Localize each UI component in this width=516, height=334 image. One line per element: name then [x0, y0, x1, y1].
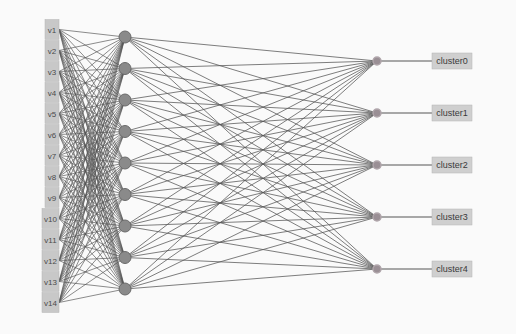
edge-v13-h9 [59, 282, 125, 290]
input-label: v8 [48, 173, 57, 182]
edge-h9-cluster0 [125, 61, 377, 289]
edge-h4-cluster2 [125, 132, 377, 166]
input-node-v10: v10 [42, 209, 59, 229]
input-node-v1: v1 [45, 20, 59, 40]
input-node-v5: v5 [45, 104, 59, 124]
input-node-v9: v9 [45, 188, 59, 208]
output-label: cluster3 [436, 212, 468, 222]
input-node-v11: v11 [42, 230, 59, 250]
hidden-layer [119, 31, 131, 295]
hidden-node-2 [119, 63, 131, 75]
input-label: v3 [48, 68, 57, 77]
input-label: v6 [48, 131, 57, 140]
input-label: v4 [48, 89, 57, 98]
edge-h9-cluster4 [125, 269, 377, 289]
hidden-node-9 [119, 283, 131, 295]
input-label: v10 [44, 215, 57, 224]
input-node-v2: v2 [45, 41, 59, 61]
edge-v1-h1 [59, 30, 125, 38]
input-label: v12 [44, 257, 57, 266]
edge-h2-cluster0 [125, 61, 377, 69]
output-label: cluster4 [436, 264, 468, 274]
edge-h2-cluster4 [125, 69, 377, 270]
edge-h3-cluster0 [125, 61, 377, 100]
input-layer: v1v2v3v4v5v6v7v8v9v10v11v12v13v14 [42, 20, 59, 313]
input-node-v3: v3 [45, 62, 59, 82]
input-node-v7: v7 [45, 146, 59, 166]
input-label: v14 [44, 299, 57, 308]
hidden-node-7 [119, 220, 131, 232]
hidden-node-5 [119, 157, 131, 169]
input-node-v4: v4 [45, 83, 59, 103]
input-label: v7 [48, 152, 57, 161]
input-label: v5 [48, 110, 57, 119]
edge-h4-cluster1 [125, 113, 377, 132]
edge-h8-cluster1 [125, 113, 377, 258]
input-label: v1 [48, 26, 57, 35]
input-label: v11 [44, 236, 57, 245]
edge-h7-cluster3 [125, 217, 377, 226]
output-node-circle [373, 161, 381, 169]
edge-h8-cluster4 [125, 258, 377, 270]
input-label: v9 [48, 194, 57, 203]
output-node-circle [373, 265, 381, 273]
edge-h9-cluster2 [125, 165, 377, 289]
output-node-circle [373, 57, 381, 65]
neural-network-diagram: v1v2v3v4v5v6v7v8v9v10v11v12v13v14 cluste… [0, 0, 516, 334]
edge-h5-cluster0 [125, 61, 377, 163]
input-node-v6: v6 [45, 125, 59, 145]
hidden-node-6 [119, 189, 131, 201]
input-node-v13: v13 [42, 272, 59, 292]
edge-h4-cluster4 [125, 132, 377, 270]
output-label: cluster1 [436, 108, 468, 118]
edge-h1-cluster2 [125, 37, 377, 165]
output-node-circle [373, 213, 381, 221]
edge-h1-cluster0 [125, 37, 377, 61]
edge-h5-cluster2 [125, 163, 377, 165]
edge-h3-cluster3 [125, 100, 377, 217]
input-label: v2 [48, 47, 57, 56]
output-label: cluster2 [436, 160, 468, 170]
edge-h8-cluster3 [125, 217, 377, 258]
hidden-node-4 [119, 126, 131, 138]
input-node-v14: v14 [42, 293, 59, 313]
input-label: v13 [44, 278, 57, 287]
hidden-node-8 [119, 252, 131, 264]
output-node-circle [373, 109, 381, 117]
hidden-node-3 [119, 94, 131, 106]
hidden-node-1 [119, 31, 131, 43]
input-node-v12: v12 [42, 251, 59, 271]
input-node-v8: v8 [45, 167, 59, 187]
edge-h2-cluster2 [125, 69, 377, 166]
output-label: cluster0 [436, 56, 468, 66]
